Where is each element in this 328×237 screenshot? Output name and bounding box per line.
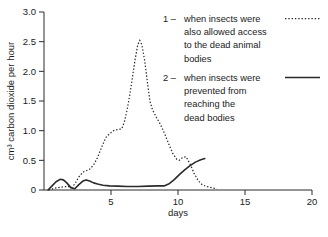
legend-marker-1: 1 –	[163, 14, 177, 24]
x-axis-title: days	[168, 207, 188, 218]
legend-label-line: dead bodies	[184, 113, 235, 123]
legend-label-line: to the dead animal	[184, 40, 261, 50]
y-tick-label: 3.0	[23, 6, 36, 17]
legend-label-line: when insects were	[183, 14, 260, 24]
legend-label-line: bodies	[184, 54, 212, 64]
chart-container: 00.51.01.52.02.53.0 5101520 cm³ carbon d…	[0, 0, 328, 237]
legend-marker-2: 2 –	[163, 73, 177, 83]
y-tick-label: 0.5	[23, 155, 36, 166]
x-tick-label: 5	[108, 196, 113, 207]
legend-label-line: also allowed access	[184, 27, 267, 37]
legend-label-line: when insects were	[183, 73, 260, 83]
x-tick-label: 15	[240, 196, 251, 207]
y-tick-label: 1.5	[23, 95, 36, 106]
chart-background	[0, 0, 328, 237]
x-tick-label: 20	[307, 196, 318, 207]
y-tick-label: 2.0	[23, 66, 36, 77]
line-chart: 00.51.01.52.02.53.0 5101520 cm³ carbon d…	[0, 0, 328, 237]
y-axis-title: cm³ carbon dioxide per hour	[5, 42, 16, 160]
legend-label-line: prevented from	[184, 86, 247, 96]
x-tick-label: 10	[173, 196, 184, 207]
y-tick-label: 0	[31, 184, 36, 195]
y-tick-label: 2.5	[23, 36, 36, 47]
legend-label-line: reaching the	[184, 99, 235, 109]
y-tick-label: 1.0	[23, 125, 36, 136]
